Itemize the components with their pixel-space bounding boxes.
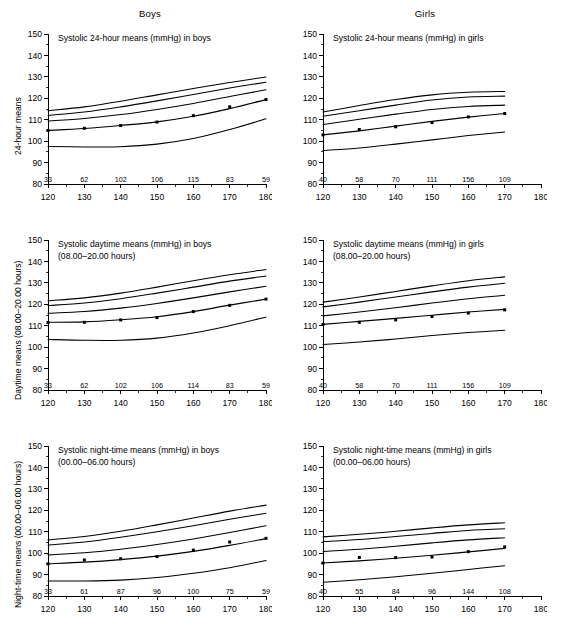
y-tick-label: 150 [303, 235, 318, 245]
observed-mean-point [394, 318, 397, 321]
chart-svg: 8090100110120130140150120130140150160170… [22, 20, 272, 206]
percentile-curve-p5 [323, 132, 505, 151]
percentile-curve-p5 [323, 330, 505, 344]
y-tick-label: 110 [303, 527, 317, 537]
x-tick-label: 150 [150, 192, 165, 202]
x-axis-title: Height (cm) [410, 411, 455, 412]
y-tick-label: 80 [307, 591, 317, 601]
percentile-curve-p5 [48, 317, 266, 340]
y-tick-label: 110 [28, 321, 42, 331]
panel-boys-24h: 8090100110120130140150120130140150160170… [22, 20, 272, 206]
y-tick-label: 80 [32, 385, 42, 395]
column-header-boys: Boys [60, 8, 240, 19]
x-tick-label: 160 [186, 192, 201, 202]
y-tick-label: 110 [28, 115, 42, 125]
x-tick-label: 140 [388, 604, 403, 614]
observed-mean-point [503, 545, 506, 548]
sample-size-label: 102 [115, 381, 127, 390]
chart-svg: 8090100110120130140150120130140150160170… [297, 226, 547, 412]
x-tick-label: 160 [186, 398, 201, 408]
y-tick-label: 140 [303, 257, 318, 267]
sample-size-label: 96 [153, 587, 161, 596]
observed-mean-point [358, 128, 361, 131]
percentile-curve-p95 [48, 77, 266, 111]
x-tick-label: 130 [77, 604, 92, 614]
y-tick-label: 120 [28, 299, 43, 309]
y-tick-label: 150 [28, 441, 43, 451]
observed-mean-point [192, 310, 195, 313]
y-tick-label: 130 [28, 484, 43, 494]
y-tick-label: 90 [307, 158, 317, 168]
sample-size-label: 33 [44, 381, 52, 390]
observed-mean-point [358, 556, 361, 559]
percentile-curve-p5 [48, 560, 266, 581]
observed-mean-point [47, 562, 50, 565]
x-tick-label: 130 [352, 192, 367, 202]
x-tick-label: 180 [259, 192, 272, 202]
sample-size-label: 33 [44, 587, 52, 596]
observed-mean-point [467, 550, 470, 553]
y-tick-label: 80 [307, 179, 317, 189]
x-tick-label: 130 [77, 398, 92, 408]
x-tick-label: 160 [461, 604, 476, 614]
observed-mean-point [192, 114, 195, 117]
percentile-curve-p90 [323, 283, 505, 307]
percentile-curve-p90 [48, 82, 266, 115]
x-tick-label: 180 [534, 398, 547, 408]
x-tick-label: 120 [316, 192, 331, 202]
y-tick-label: 120 [28, 93, 43, 103]
observed-mean-point [503, 112, 506, 115]
observed-mean-point [431, 556, 434, 559]
sample-size-label: 111 [427, 175, 438, 184]
observed-mean-point [228, 105, 231, 108]
observed-mean-point [47, 129, 50, 132]
y-tick-label: 150 [303, 441, 318, 451]
panel-title: Systolic 24-hour means (mmHg) in girls [333, 33, 483, 43]
panel-subtitle: (00.00–06.00 hours) [58, 457, 136, 467]
percentile-curve-p90 [48, 513, 266, 545]
observed-mean-point [322, 133, 325, 136]
percentile-curve-p95 [48, 505, 266, 540]
x-tick-label: 120 [316, 398, 331, 408]
observed-mean-point [83, 321, 86, 324]
sample-size-label: 108 [499, 587, 511, 596]
x-tick-label: 170 [497, 604, 512, 614]
x-tick-label: 150 [425, 398, 440, 408]
sample-size-label: 62 [80, 175, 88, 184]
y-tick-label: 100 [28, 342, 43, 352]
y-tick-label: 90 [307, 570, 317, 580]
sample-size-label: 55 [355, 587, 363, 596]
y-tick-label: 150 [28, 29, 43, 39]
y-tick-label: 80 [32, 591, 42, 601]
y-tick-label: 100 [303, 548, 318, 558]
chart-svg: 8090100110120130140150120130140150160170… [22, 226, 272, 412]
x-tick-label: 170 [497, 192, 512, 202]
percentile-curve-p75 [323, 105, 505, 124]
y-tick-label: 120 [303, 505, 318, 515]
x-tick-label: 120 [316, 604, 331, 614]
observed-mean-point [119, 557, 122, 560]
observed-mean-point [265, 98, 268, 101]
percentile-curve-p75 [48, 526, 266, 555]
y-tick-label: 130 [28, 72, 43, 82]
y-tick-label: 110 [303, 321, 317, 331]
sample-size-label: 70 [392, 381, 400, 390]
sample-size-label: 106 [151, 175, 163, 184]
observed-mean-point [83, 127, 86, 130]
observed-mean-point [265, 298, 268, 301]
x-tick-label: 150 [425, 604, 440, 614]
sample-size-label: 114 [188, 381, 199, 390]
x-axis-title: Height (cm) [135, 617, 180, 618]
sample-size-label: 84 [392, 587, 400, 596]
panel-title: Systolic daytime means (mmHg) in girls [333, 239, 484, 249]
sample-size-label: 59 [262, 175, 270, 184]
observed-mean-point [265, 537, 268, 540]
percentile-curve-p50 [323, 548, 505, 563]
y-tick-label: 100 [303, 342, 318, 352]
x-tick-label: 120 [41, 192, 56, 202]
sample-size-label: 144 [462, 587, 474, 596]
sample-size-label: 83 [226, 381, 234, 390]
observed-mean-point [394, 125, 397, 128]
x-tick-label: 130 [77, 192, 92, 202]
x-tick-label: 140 [113, 398, 128, 408]
